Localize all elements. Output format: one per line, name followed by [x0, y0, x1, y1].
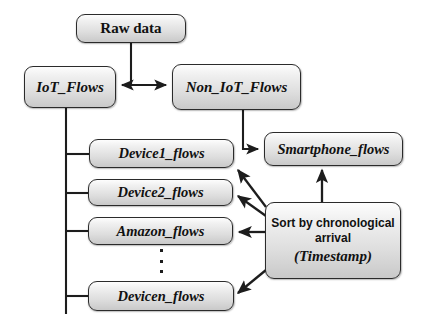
node-amazon-flows-label: Amazon_flows: [89, 223, 232, 239]
edge-sort-box-to-device2-flows: [238, 196, 266, 216]
ellipsis-dot: [160, 260, 163, 263]
edge-sort-box-to-devicen-flows: [238, 270, 266, 293]
node-amazon-flows[interactable]: Amazon_flows: [88, 217, 233, 245]
node-raw-data-label: Raw data: [77, 20, 185, 37]
node-devicen-flows-label: Devicen_flows: [89, 288, 233, 304]
node-smartphone-flows[interactable]: Smartphone_flows: [264, 132, 403, 166]
node-sort-box-label-timestamp: (Timestamp): [294, 248, 372, 265]
flowchart-diagram: Raw data IoT_Flows Non_IoT_Flows Smartph…: [0, 0, 425, 335]
ellipsis-dot: [160, 249, 163, 252]
node-non-iot-flows-label: Non_IoT_Flows: [173, 79, 300, 96]
node-non-iot-flows[interactable]: Non_IoT_Flows: [172, 64, 301, 110]
node-device1-flows-label: Device1_flows: [90, 145, 233, 161]
node-sort-box[interactable]: Sort by chronological arrival (Timestamp…: [265, 202, 401, 279]
node-device2-flows-label: Device2_flows: [89, 184, 232, 200]
node-smartphone-flows-label: Smartphone_flows: [265, 141, 402, 157]
edge-non-iot-flows-to-smartphone-flows: [243, 110, 258, 149]
ellipsis-dot: [160, 270, 163, 273]
vertical-ellipsis-icon: [156, 249, 166, 273]
node-iot-flows[interactable]: IoT_Flows: [24, 66, 116, 108]
node-sort-box-label-primary: Sort by chronological arrival: [268, 216, 398, 244]
node-device1-flows[interactable]: Device1_flows: [89, 139, 234, 168]
edge-sort-box-to-device1-flows: [238, 170, 266, 207]
node-devicen-flows[interactable]: Devicen_flows: [88, 281, 234, 311]
node-device2-flows[interactable]: Device2_flows: [88, 179, 233, 206]
node-iot-flows-label: IoT_Flows: [25, 79, 115, 96]
node-raw-data[interactable]: Raw data: [76, 14, 186, 43]
